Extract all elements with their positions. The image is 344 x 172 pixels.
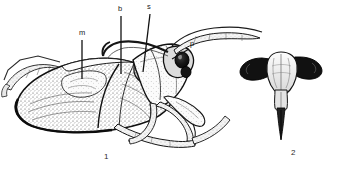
callout-label-s: s: [147, 3, 151, 11]
callout-label-m: m: [79, 29, 85, 37]
figure-number-1: 1: [104, 153, 108, 161]
figure-number-2: 2: [291, 149, 295, 157]
figure-2-dorsal-head: [240, 52, 322, 140]
figure-1-lateral-habitus: [2, 14, 262, 147]
plate-canvas: [0, 0, 344, 172]
compound-eye: [175, 52, 189, 68]
middle-leg: [156, 96, 205, 142]
head-capsule: [267, 52, 297, 94]
callout-label-b: b: [118, 5, 122, 13]
callout-label-p: p: [190, 40, 194, 48]
illustration-plate: m b s p 1 2: [0, 0, 344, 172]
